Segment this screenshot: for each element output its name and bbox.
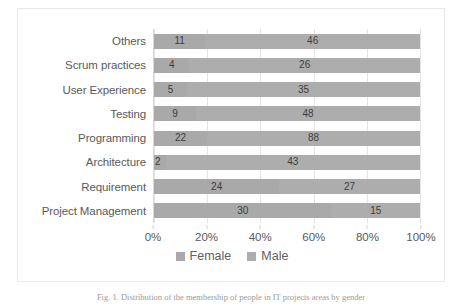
bar-segment-male-scrum-practices[interactable]: 26 [189,58,420,73]
x-tick-mark-20% [206,225,207,229]
male-legend-swatch [247,252,256,261]
x-tick-mark-80% [367,225,368,229]
x-tick-80%: 80% [356,225,379,243]
bar-segment-male-others[interactable]: 46 [205,34,420,49]
category-label-scrum-practices: Scrum practices [18,53,152,77]
bar-segment-female-others[interactable]: 11 [154,34,205,49]
bar-value-female-requirement: 24 [211,182,222,192]
bar-value-male-project-management: 15 [370,206,381,216]
chart-legend: Female Male [18,249,446,263]
bar-value-male-scrum-practices: 26 [299,60,310,70]
bar-segment-female-requirement[interactable]: 24 [154,179,279,194]
category-label-others: Others [18,29,152,53]
x-tick-mark-100% [420,225,421,229]
bar-row-project-management: 3015 [154,203,420,218]
bar-segment-male-architecture[interactable]: 43 [166,155,420,170]
plot-area: 1146426535948228824324273015 [153,29,421,223]
bar-segment-male-user-experience[interactable]: 35 [187,82,420,97]
x-tick-0%: 0% [145,225,162,243]
category-axis: Others Scrum practices User Experience T… [18,29,152,223]
bar-value-female-architecture: 2 [155,157,161,167]
category-label-testing: Testing [18,102,152,126]
bar-segment-female-testing[interactable]: 9 [154,106,196,121]
bar-segment-male-project-management[interactable]: 15 [331,203,420,218]
x-tick-label-60%: 60% [302,231,325,243]
bar-value-female-project-management: 30 [237,206,248,216]
gridline-100% [420,29,421,223]
x-tick-label-100%: 100% [406,231,435,243]
bar-segment-male-requirement[interactable]: 27 [279,179,420,194]
bar-segment-female-programming[interactable]: 22 [154,131,207,146]
legend-label-female: Female [190,249,232,263]
bar-value-male-testing: 48 [302,109,313,119]
x-tick-label-0%: 0% [145,231,162,243]
bar-value-male-others: 46 [307,36,318,46]
x-tick-label-80%: 80% [356,231,379,243]
bar-segment-female-architecture[interactable]: 2 [154,155,166,170]
category-label-project-management: Project Management [18,199,152,223]
bar-value-female-others: 11 [174,36,184,46]
bar-value-female-testing: 9 [172,109,178,119]
bar-segment-male-testing[interactable]: 48 [196,106,420,121]
bar-value-female-user-experience: 5 [168,85,174,95]
x-tick-20%: 20% [195,225,218,243]
value-axis: 0%20%40%60%80%100% [153,225,421,245]
bar-value-male-requirement: 27 [344,182,355,192]
x-tick-mark-40% [260,225,261,229]
bar-row-user-experience: 535 [154,82,420,97]
category-label-requirement: Requirement [18,175,152,199]
female-legend-swatch [176,252,185,261]
legend-item-female[interactable]: Female [176,249,232,263]
x-tick-60%: 60% [302,225,325,243]
x-tick-mark-0% [153,225,154,229]
bar-value-male-user-experience: 35 [298,85,309,95]
x-tick-label-20%: 20% [195,231,218,243]
bar-segment-female-scrum-practices[interactable]: 4 [154,58,189,73]
legend-label-male: Male [261,249,288,263]
chart-frame: Others Scrum practices User Experience T… [17,8,445,282]
bar-segment-male-programming[interactable]: 88 [207,131,420,146]
bar-value-male-architecture: 43 [287,157,298,167]
x-tick-40%: 40% [249,225,272,243]
bar-segment-female-project-management[interactable]: 30 [154,203,331,218]
bar-row-others: 1146 [154,34,420,49]
legend-item-male[interactable]: Male [247,249,288,263]
x-tick-100%: 100% [406,225,435,243]
x-tick-label-40%: 40% [249,231,272,243]
bar-series-group: 1146426535948228824324273015 [154,29,420,223]
bar-value-female-programming: 22 [175,133,186,143]
bar-row-scrum-practices: 426 [154,58,420,73]
category-label-architecture: Architecture [18,150,152,174]
bar-row-architecture: 243 [154,155,420,170]
bar-row-testing: 948 [154,106,420,121]
figure-caption: Fig. 1. Distribution of the membership o… [0,292,462,307]
category-label-user-experience: User Experience [18,78,152,102]
bar-segment-female-user-experience[interactable]: 5 [154,82,187,97]
bar-value-female-scrum-practices: 4 [169,60,175,70]
bar-row-requirement: 2427 [154,179,420,194]
category-label-programming: Programming [18,126,152,150]
x-tick-mark-60% [313,225,314,229]
bar-value-male-programming: 88 [308,133,319,143]
bar-row-programming: 2288 [154,131,420,146]
